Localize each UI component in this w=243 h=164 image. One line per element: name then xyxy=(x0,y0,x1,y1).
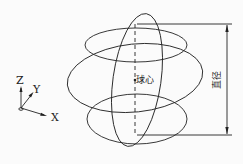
origin-marker xyxy=(19,108,23,111)
x-axis-label: X xyxy=(51,111,59,124)
x-axis-arrow xyxy=(40,113,47,116)
middle-great-circle xyxy=(64,37,206,119)
dimension-arrow-top xyxy=(225,25,228,32)
bottom-latitude-ellipse xyxy=(87,94,187,144)
x-axis xyxy=(21,108,44,115)
sphere-diagram: 球心 直径 Z Y X xyxy=(0,0,243,164)
dimension-arrow-bottom xyxy=(225,127,228,134)
diagram-canvas: 球心 直径 Z Y X xyxy=(0,0,243,164)
top-latitude-ellipse xyxy=(85,28,187,62)
y-axis-label: Y xyxy=(32,83,41,96)
center-label: 球心 xyxy=(136,74,154,85)
z-axis-label: Z xyxy=(16,74,24,87)
diameter-label: 直径 xyxy=(211,71,222,89)
